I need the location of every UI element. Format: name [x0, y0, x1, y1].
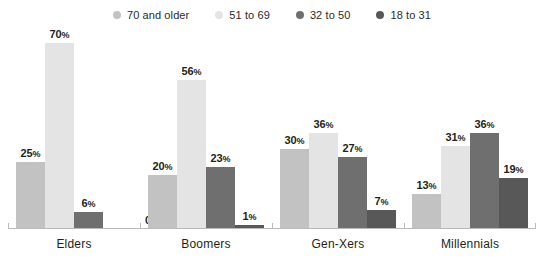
bar[interactable] [499, 178, 528, 228]
bar[interactable] [441, 146, 470, 228]
legend-item-label: 18 to 31 [390, 9, 431, 21]
bar-column[interactable]: 1% [235, 30, 264, 228]
bar-column[interactable]: 19% [499, 30, 528, 228]
bar[interactable] [45, 43, 74, 228]
bar-column[interactable]: 30% [280, 30, 309, 228]
bar-column[interactable]: 36% [309, 30, 338, 228]
bar[interactable] [470, 133, 499, 228]
bar[interactable] [74, 212, 103, 228]
bar-value-label: 13% [417, 180, 437, 192]
bar[interactable] [309, 133, 338, 228]
bar-column[interactable]: 23% [206, 30, 235, 228]
bar-value-label: 56% [182, 66, 202, 78]
bar[interactable] [148, 175, 177, 228]
bar-column[interactable]: 25% [16, 30, 45, 228]
axis-tick [404, 223, 405, 229]
bar[interactable] [412, 194, 441, 228]
bar-column[interactable]: 70% [45, 30, 74, 228]
bar-column[interactable]: 7% [367, 30, 396, 228]
bar-column[interactable]: 0% [103, 30, 132, 228]
bar-value-label: 70% [50, 29, 70, 41]
bar-column[interactable]: 56% [177, 30, 206, 228]
bar-value-label: 6% [82, 198, 96, 210]
bar-chart: 70 and older51 to 6932 to 5018 to 31 25%… [0, 0, 544, 259]
bar-value-label: 30% [285, 135, 305, 147]
axis-tick [535, 223, 536, 229]
bar-group: 13%31%36%19% [412, 30, 528, 228]
legend-swatch-icon [296, 11, 304, 19]
bar-value-label: 7% [375, 196, 389, 208]
x-axis-labels: EldersBoomersGen-XersMillennials [8, 234, 536, 256]
bar-value-label: 25% [21, 148, 41, 160]
bar[interactable] [338, 157, 367, 228]
bar-value-label: 23% [211, 153, 231, 165]
bar-column[interactable]: 36% [470, 30, 499, 228]
bar-value-label: 27% [343, 143, 363, 155]
bar-column[interactable]: 20% [148, 30, 177, 228]
axis-tick [272, 223, 273, 229]
legend-item-label: 32 to 50 [310, 9, 351, 21]
x-axis-label: Millennials [404, 234, 536, 254]
x-axis-label: Elders [8, 234, 140, 254]
bar[interactable] [206, 167, 235, 228]
axis-tick [140, 223, 141, 229]
x-axis-label: Gen-Xers [272, 234, 404, 254]
legend-swatch-icon [215, 11, 223, 19]
legend-item[interactable]: 70 and older [113, 9, 189, 21]
legend-item[interactable]: 32 to 50 [296, 9, 351, 21]
bar-group: 20%56%23%1% [148, 30, 264, 228]
legend-swatch-icon [113, 11, 121, 19]
bar-column[interactable]: 27% [338, 30, 367, 228]
bar-value-label: 19% [504, 164, 524, 176]
bar-group: 30%36%27%7% [280, 30, 396, 228]
bar[interactable] [280, 149, 309, 228]
bar[interactable] [177, 80, 206, 228]
legend-item-label: 70 and older [127, 9, 189, 21]
bar-column[interactable]: 31% [441, 30, 470, 228]
bar-value-label: 31% [446, 132, 466, 144]
bar[interactable] [367, 210, 396, 228]
bar-value-label: 1% [243, 211, 257, 223]
legend-swatch-icon [376, 11, 384, 19]
axis-tick [8, 223, 9, 229]
bar-value-label: 20% [153, 161, 173, 173]
bar-value-label: 36% [314, 119, 334, 131]
bar-value-label: 36% [475, 119, 495, 131]
legend-item[interactable]: 51 to 69 [215, 9, 270, 21]
bar-group: 25%70%6%0% [16, 30, 132, 228]
x-axis-line [8, 228, 536, 229]
x-axis-label: Boomers [140, 234, 272, 254]
bar-column[interactable]: 6% [74, 30, 103, 228]
legend-item-label: 51 to 69 [229, 9, 270, 21]
legend-item[interactable]: 18 to 31 [376, 9, 431, 21]
bar-column[interactable]: 13% [412, 30, 441, 228]
chart-legend: 70 and older51 to 6932 to 5018 to 31 [0, 9, 544, 21]
plot-area: 25%70%6%0%20%56%23%1%30%36%27%7%13%31%36… [8, 30, 536, 228]
bar[interactable] [16, 162, 45, 228]
